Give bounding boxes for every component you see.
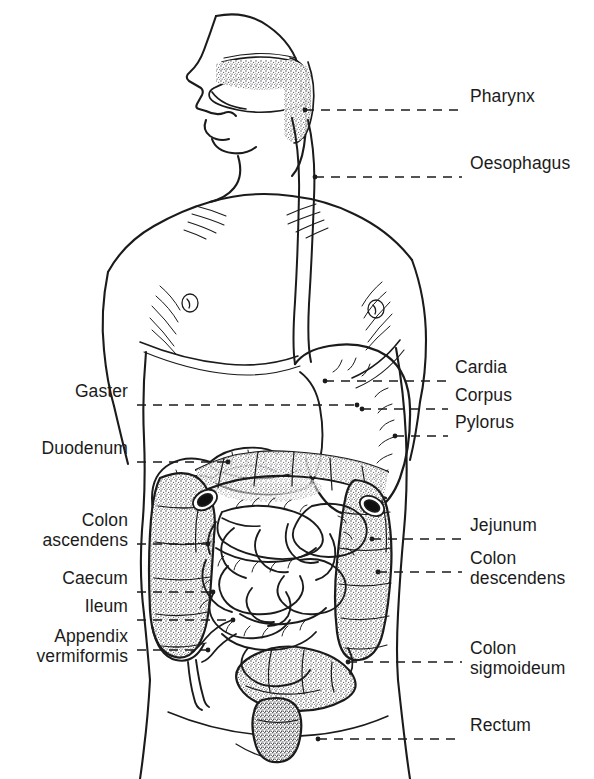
label-line: Ileum <box>85 596 128 616</box>
label-colon-descendens: Colondescendens <box>470 549 565 588</box>
leader-dot-colon-sigmoideum <box>346 660 351 665</box>
label-line: Colon <box>470 638 516 658</box>
label-gaster: Gaster <box>0 382 128 402</box>
anatomy-figure: PharynxOesophagusCardiaCorpusPylorusJeju… <box>0 0 594 779</box>
label-colon-ascendens: Colonascendens <box>0 511 128 550</box>
label-line: vermiformis <box>36 646 128 666</box>
leader-dot-colon-descendens <box>376 570 381 575</box>
label-line: ascendens <box>42 530 128 550</box>
label-line: Duodenum <box>42 438 128 458</box>
appendix-organ <box>188 660 209 710</box>
label-line: Gaster <box>75 381 128 401</box>
leader-dot-duodenum <box>226 460 231 465</box>
label-line: Cardia <box>455 357 507 377</box>
label-pylorus: Pylorus <box>455 413 514 433</box>
label-line: Corpus <box>455 385 512 405</box>
label-line: Colon <box>470 548 516 568</box>
label-appendix-vermiformis: Appendixvermiformis <box>0 627 128 666</box>
label-line: Appendix <box>54 626 128 646</box>
leader-dot-gaster <box>355 403 360 408</box>
leader-dot-colon-ascendens <box>206 542 211 547</box>
label-jejunum: Jejunum <box>470 516 537 536</box>
leader-dot-oesophagus <box>313 175 318 180</box>
label-corpus: Corpus <box>455 386 512 406</box>
leader-dot-pharynx <box>303 108 308 113</box>
label-colon-sigmoideum: Colonsigmoideum <box>470 639 565 678</box>
label-line: Jejunum <box>470 515 537 535</box>
label-line: Oesophagus <box>470 153 570 173</box>
label-oesophagus: Oesophagus <box>470 154 570 174</box>
label-caecum: Caecum <box>0 569 128 589</box>
leader-dot-appendix-vermiformis <box>206 648 211 653</box>
colon-sigmoideum-organ <box>236 647 355 711</box>
pharynx-organ <box>284 56 318 146</box>
label-line: descendens <box>470 568 565 588</box>
label-line: Rectum <box>470 715 531 735</box>
leader-dot-pylorus <box>393 434 398 439</box>
leader-dot-corpus <box>360 407 365 412</box>
label-rectum: Rectum <box>470 716 531 736</box>
leader-dot-ileum <box>231 618 236 623</box>
label-line: Pylorus <box>455 412 514 432</box>
label-pharynx: Pharynx <box>470 87 535 107</box>
leader-dot-jejunum <box>370 537 375 542</box>
label-duodenum: Duodenum <box>0 439 128 459</box>
leader-dot-cardia <box>323 379 328 384</box>
label-ileum: Ileum <box>0 597 128 617</box>
leader-dot-rectum <box>316 737 321 742</box>
label-line: Pharynx <box>470 86 535 106</box>
label-line: Caecum <box>62 568 128 588</box>
leader-dot-caecum <box>211 590 216 595</box>
label-line: Colon <box>82 510 128 530</box>
label-line: sigmoideum <box>470 658 565 678</box>
rectum-organ <box>252 698 301 762</box>
label-cardia: Cardia <box>455 358 507 378</box>
